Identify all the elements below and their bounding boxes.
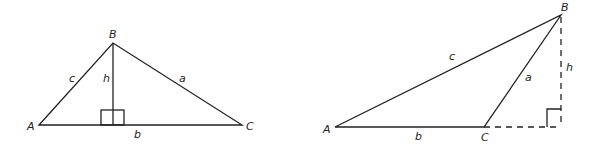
side-label-c: c: [449, 50, 455, 63]
altitude-label-h: h: [566, 61, 573, 74]
obtuse-triangle: B A C c a h b: [322, 1, 573, 144]
acute-triangle: B A C c h a b: [26, 28, 254, 141]
side-label-b: b: [134, 128, 141, 141]
vertex-label-a: A: [26, 120, 35, 133]
right-angle-marker: [547, 109, 561, 127]
altitude-label-h: h: [103, 72, 110, 85]
triangle-diagrams: B A C c h a b B A C c a h b: [0, 0, 596, 149]
vertex-label-c: C: [481, 131, 489, 144]
vertex-label-b: B: [561, 1, 569, 14]
side-label-c: c: [69, 72, 75, 85]
vertex-label-b: B: [109, 28, 117, 41]
side-label-b: b: [415, 130, 422, 143]
vertex-label-c: C: [246, 120, 254, 133]
vertex-label-a: A: [322, 123, 331, 136]
side-label-a: a: [179, 72, 186, 85]
side-label-a: a: [525, 71, 532, 84]
